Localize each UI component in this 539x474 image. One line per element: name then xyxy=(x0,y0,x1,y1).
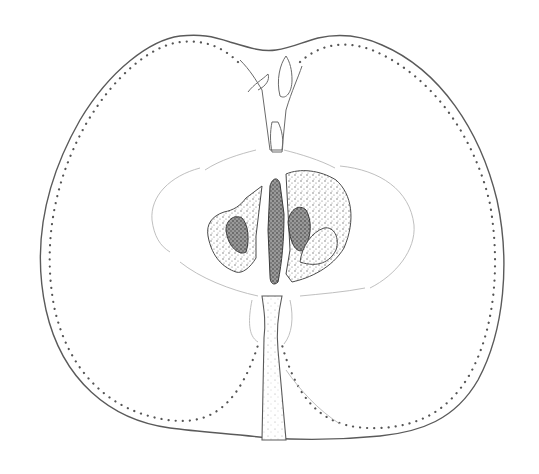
apple-cross-section-drawing xyxy=(0,0,539,474)
seed-cavities xyxy=(208,171,351,284)
stalk xyxy=(250,296,340,440)
calyx xyxy=(205,56,335,170)
apple-illustration xyxy=(0,0,539,474)
